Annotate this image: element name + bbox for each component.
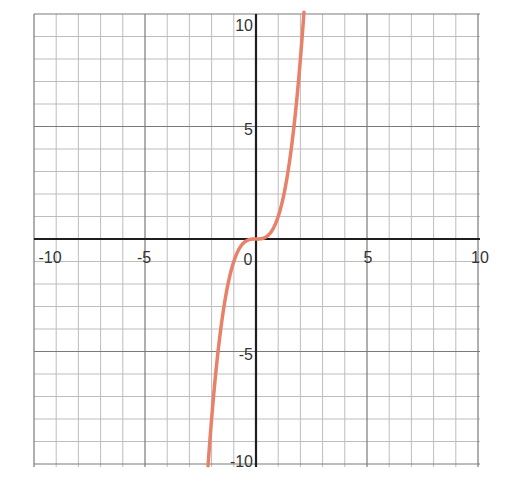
x-tick-label: -10 bbox=[38, 249, 61, 266]
cubic-function-graph: -10-50510105-5-10 bbox=[0, 0, 506, 485]
y-tick-label: -5 bbox=[239, 346, 253, 363]
y-tick-label: 5 bbox=[244, 121, 253, 138]
x-tick-label: 0 bbox=[244, 251, 253, 268]
tick-labels: -10-50510105-5-10 bbox=[38, 17, 489, 470]
x-tick-label: -5 bbox=[137, 249, 151, 266]
y-tick-label: -10 bbox=[230, 453, 253, 470]
y-tick-label: 10 bbox=[235, 17, 253, 34]
x-tick-label: 5 bbox=[364, 249, 373, 266]
x-tick-label: 10 bbox=[471, 249, 489, 266]
